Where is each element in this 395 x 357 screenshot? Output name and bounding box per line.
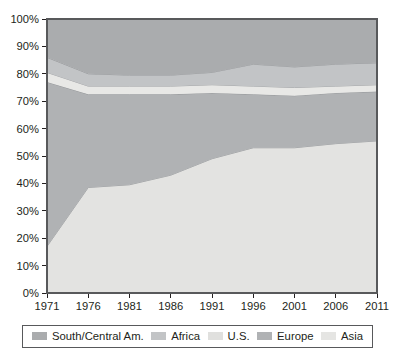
x-tick-label: 2001	[282, 300, 307, 312]
legend-label-europe: Europe	[277, 331, 313, 342]
legend-item-africa[interactable]: Africa	[151, 331, 200, 342]
y-tick-label: 30%	[17, 205, 39, 217]
legend-swatch-europe	[257, 332, 272, 340]
y-axis-tick-group: 0%10%20%30%40%50%60%70%80%90%100%	[10, 13, 47, 299]
x-tick-label: 1986	[158, 300, 183, 312]
legend-item-asia[interactable]: Asia	[321, 331, 363, 342]
x-tick-label: 2011	[365, 300, 389, 312]
legend-item-us[interactable]: U.S.	[208, 331, 250, 342]
legend-swatch-africa	[151, 332, 166, 340]
x-tick-label: 1971	[35, 300, 60, 312]
area-series-group	[47, 19, 377, 293]
y-tick-label: 60%	[17, 123, 39, 135]
chart-legend: South/Central Am. Africa U.S. Europe Asi…	[22, 325, 373, 348]
y-tick-label: 50%	[17, 150, 39, 162]
legend-swatch-us	[208, 332, 223, 340]
legend-swatch-asia	[321, 332, 336, 340]
legend-item-south-central-am[interactable]: South/Central Am.	[32, 331, 144, 342]
legend-item-europe[interactable]: Europe	[257, 331, 313, 342]
legend-label-asia: Asia	[341, 331, 363, 342]
x-tick-label: 1976	[76, 300, 101, 312]
x-tick-label: 1981	[117, 300, 142, 312]
y-tick-label: 20%	[17, 232, 39, 244]
y-tick-label: 10%	[17, 260, 39, 272]
y-tick-label: 90%	[17, 40, 39, 52]
x-tick-label: 2006	[323, 300, 348, 312]
stacked-area-chart-figure: 0%10%20%30%40%50%60%70%80%90%100% 197119…	[0, 0, 395, 357]
chart-plot-svg: 0%10%20%30%40%50%60%70%80%90%100% 197119…	[0, 0, 395, 357]
y-tick-label: 80%	[17, 68, 39, 80]
legend-label-us: U.S.	[228, 331, 250, 342]
legend-swatch-south-central-am	[32, 332, 47, 340]
y-tick-label: 100%	[10, 13, 39, 25]
x-tick-label: 1996	[241, 300, 266, 312]
legend-label-south-central-am: South/Central Am.	[52, 331, 144, 342]
legend-label-africa: Africa	[171, 331, 200, 342]
y-tick-label: 40%	[17, 177, 39, 189]
x-tick-label: 1991	[200, 300, 225, 312]
y-tick-label: 0%	[23, 287, 39, 299]
y-tick-label: 70%	[17, 95, 39, 107]
x-axis-tick-group: 197119761981198619911996200120062011	[35, 293, 389, 312]
